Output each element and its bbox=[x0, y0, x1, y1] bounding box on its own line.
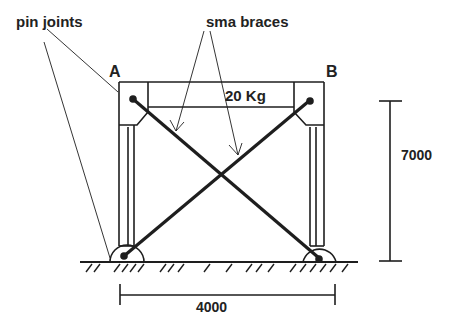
load-label: 20 Kg bbox=[225, 88, 266, 103]
node-a-label: A bbox=[109, 64, 121, 80]
ground-hatching bbox=[86, 264, 348, 272]
pin-joint-right-base bbox=[315, 255, 323, 263]
sma-brace-b bbox=[124, 101, 309, 256]
pin-joint-left-base bbox=[120, 252, 128, 260]
sma-brace-a bbox=[133, 99, 319, 258]
height-dimension bbox=[379, 101, 402, 261]
height-dimension-label: 7000 bbox=[401, 148, 432, 162]
node-b-label: B bbox=[326, 64, 338, 80]
frame-diagram bbox=[0, 0, 449, 328]
left-column bbox=[119, 82, 134, 246]
top-beam bbox=[119, 82, 324, 107]
pin-joint-b bbox=[306, 97, 314, 105]
width-dimension-label: 4000 bbox=[196, 300, 227, 314]
ground bbox=[80, 262, 358, 272]
pin-joints-leaders bbox=[44, 29, 118, 258]
sma-braces-label: sma braces bbox=[206, 14, 289, 29]
pin-joint-a bbox=[129, 95, 137, 103]
width-dimension bbox=[120, 284, 335, 305]
pin-joints-label: pin joints bbox=[16, 14, 83, 29]
right-column bbox=[310, 82, 324, 246]
